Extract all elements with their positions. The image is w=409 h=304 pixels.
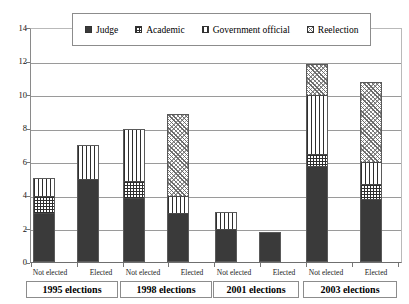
- bar-1995-not-elected[interactable]: [33, 178, 55, 262]
- stacked-bar-chart: 14 12 10 8 6 4 2 0: [0, 0, 409, 304]
- bar-segment-judge: [34, 213, 54, 261]
- x-tick-mark: [168, 263, 169, 267]
- x-tick-mark: [214, 263, 215, 267]
- bar-segment-reelection: [307, 65, 327, 95]
- x-tick-mark: [352, 263, 353, 267]
- cross-hatch-swatch-icon: [135, 26, 142, 33]
- bar-segment-judge: [361, 199, 381, 261]
- bar-segment-government: [361, 162, 381, 184]
- x-tick-mark: [306, 263, 307, 267]
- group-label-1995: 1995 elections: [26, 281, 118, 298]
- bar-segment-academic: [307, 154, 327, 166]
- bar-segment-government: [168, 196, 188, 213]
- bar-segment-reelection: [361, 83, 381, 162]
- x-tick-mark: [77, 263, 78, 267]
- bar-segment-government: [34, 179, 54, 196]
- bar-segment-reelection: [168, 115, 188, 196]
- legend-item-government-official[interactable]: Government official: [202, 25, 290, 35]
- bar-segment-government: [124, 130, 144, 180]
- legend-item-judge[interactable]: Judge: [85, 25, 118, 35]
- bar-2003-not-elected[interactable]: [306, 64, 328, 262]
- legend-item-reelection[interactable]: Reelection: [307, 25, 359, 35]
- bar-segment-judge: [124, 198, 144, 261]
- bar-segment-government: [307, 95, 327, 154]
- bar-segment-judge: [260, 233, 280, 261]
- plot-area: [30, 28, 402, 263]
- bar-2001-not-elected[interactable]: [215, 212, 237, 262]
- legend-item-academic[interactable]: Academic: [135, 25, 185, 35]
- diagonal-hatch-swatch-icon: [307, 26, 314, 33]
- gridline: [31, 63, 401, 64]
- x-tick-mark: [31, 263, 32, 267]
- group-label-2003: 2003 elections: [303, 281, 397, 298]
- bar-segment-academic: [124, 181, 144, 198]
- y-tick-label: 14: [5, 24, 27, 33]
- bar-2003-elected[interactable]: [360, 82, 382, 262]
- bar-segment-government: [216, 213, 236, 230]
- legend-label: Government official: [213, 25, 290, 35]
- x-category-label-2003-elected: Elected: [343, 268, 409, 277]
- bar-segment-judge: [78, 179, 98, 261]
- y-tick-label: 4: [5, 191, 27, 200]
- y-tick-label: 2: [5, 225, 27, 234]
- bar-segment-judge: [216, 229, 236, 261]
- bar-segment-judge: [307, 166, 327, 261]
- bar-1995-elected[interactable]: [77, 145, 99, 263]
- bar-segment-government: [78, 146, 98, 180]
- y-tick-label: 6: [5, 158, 27, 167]
- bar-segment-academic: [34, 196, 54, 213]
- vertical-stripes-swatch-icon: [202, 26, 209, 33]
- y-tick-label: 8: [5, 124, 27, 133]
- y-axis: 14 12 10 8 6 4 2 0: [0, 0, 27, 304]
- y-tick-label: 12: [5, 57, 27, 66]
- bar-1998-elected[interactable]: [167, 114, 189, 262]
- legend: Judge Academic Government official Reele…: [72, 13, 371, 46]
- gridline: [31, 96, 401, 97]
- legend-label: Judge: [96, 25, 118, 35]
- bar-segment-judge: [168, 213, 188, 261]
- y-tick-label: 0: [5, 258, 27, 267]
- y-tick-label: 10: [5, 91, 27, 100]
- legend-label: Academic: [146, 25, 185, 35]
- x-tick-mark: [398, 263, 399, 267]
- bar-2001-elected[interactable]: [259, 232, 281, 262]
- bar-1998-not-elected[interactable]: [123, 129, 145, 262]
- x-tick-mark: [123, 263, 124, 267]
- x-tick-mark: [260, 263, 261, 267]
- legend-label: Reelection: [318, 25, 359, 35]
- solid-dark-swatch-icon: [85, 26, 92, 33]
- bar-segment-academic: [361, 184, 381, 199]
- gridline: [31, 130, 401, 131]
- group-label-2001: 2001 elections: [213, 281, 299, 298]
- group-label-1998: 1998 elections: [120, 281, 212, 298]
